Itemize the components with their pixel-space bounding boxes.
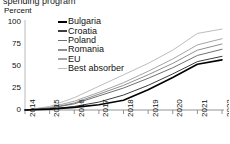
- y-tick-label: 100: [1, 18, 21, 26]
- x-tick-label: 2019: [152, 99, 160, 117]
- x-tick-label: 2016: [78, 99, 86, 117]
- legend-swatch-icon: [58, 21, 67, 23]
- legend-swatch-icon: [58, 49, 67, 51]
- x-tick-label: 2020: [176, 99, 184, 117]
- legend-swatch-icon: [58, 40, 67, 42]
- y-tick-label: 75: [1, 40, 21, 48]
- x-tick-label: 2022: [226, 99, 230, 117]
- legend-item[interactable]: Bulgaria: [58, 17, 124, 26]
- y-tick-label: 50: [1, 62, 21, 70]
- legend-item-label: Best absorber: [68, 64, 124, 73]
- x-tick-label: 2015: [53, 99, 61, 117]
- x-tick-label: 2018: [127, 99, 135, 117]
- legend-item-label: Romania: [68, 45, 104, 54]
- line-chart: spending program Percent 1007550250 2014…: [0, 0, 229, 144]
- legend-swatch-icon: [58, 30, 67, 32]
- y-tick-label: 0: [1, 106, 21, 114]
- x-tick-label: 2021: [201, 99, 209, 117]
- x-tick-label: 2014: [29, 99, 37, 117]
- chart-legend: BulgariaCroatiaPolandRomaniaEUBest absor…: [58, 17, 124, 73]
- y-tick-label: 25: [1, 84, 21, 92]
- axis-lines: [25, 20, 224, 110]
- legend-item[interactable]: Best absorber: [58, 64, 124, 73]
- legend-item-label: Bulgaria: [68, 17, 101, 26]
- x-tick-label: 2017: [102, 99, 110, 117]
- legend-swatch-icon: [58, 58, 67, 60]
- legend-swatch-icon: [58, 68, 67, 70]
